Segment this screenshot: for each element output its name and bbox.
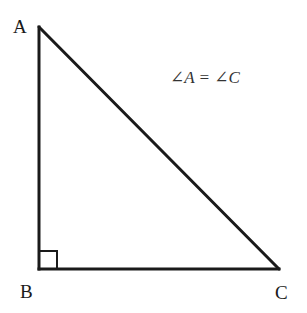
triangle-diagram <box>0 0 307 313</box>
vertex-label-a: A <box>13 17 27 36</box>
side-ac-hypotenuse <box>39 27 279 269</box>
vertex-label-b: B <box>20 282 33 301</box>
vertex-label-c: C <box>275 283 288 302</box>
right-angle-marker <box>39 251 57 269</box>
angle-equation: ∠A = ∠C <box>170 69 240 86</box>
